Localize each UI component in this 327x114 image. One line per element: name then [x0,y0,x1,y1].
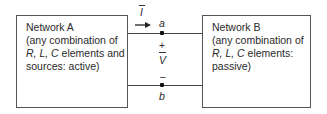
current-label: I [140,7,143,18]
voltage-phasor-bar [159,52,166,53]
network-a-box: Network A (any combination of R, L, C el… [16,15,128,108]
voltage-label: V [159,55,166,66]
current-arrow-icon [135,21,151,29]
network-a-line1: (any combination of [26,34,125,47]
bottom-wire [128,85,202,86]
network-b-text: Network B (any combination of R, L, C el… [212,21,304,73]
network-b-box: Network B (any combination of R, L, C el… [202,15,311,108]
network-a-title: Network A [26,21,125,34]
network-a-line3: sources: active) [26,60,125,73]
network-a-line2: R, L, C elements and [26,47,125,60]
rlc-italic: R, L, C [212,47,245,59]
terminal-b-node [160,83,164,87]
minus-sign: – [160,71,166,82]
network-b-title: Network B [212,21,304,34]
rlc-italic: R, L, C [26,47,59,59]
plus-sign: + [159,40,165,51]
network-a-line2-rest: elements and [59,47,125,59]
network-b-line3: passive) [212,60,304,73]
top-wire [128,33,202,34]
network-b-line1: (any combination of [212,34,304,47]
network-a-text: Network A (any combination of R, L, C el… [26,21,125,73]
network-b-line2-rest: elements: [245,47,293,59]
terminal-a-node [160,31,164,35]
terminal-b-label: b [159,91,165,102]
terminal-a-label: a [159,18,165,29]
network-b-line2: R, L, C elements: [212,47,304,60]
